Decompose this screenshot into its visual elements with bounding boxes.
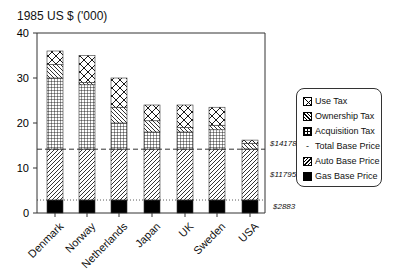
bar-sweden xyxy=(209,107,225,217)
diagonal-swatch-icon xyxy=(303,157,312,166)
grid-swatch-icon xyxy=(303,127,312,136)
gas-base-price-annotation: $2883 xyxy=(273,202,295,211)
y-tick-label: 30 xyxy=(17,72,29,84)
bar-netherlands xyxy=(111,78,127,217)
y-tick-label: 20 xyxy=(17,117,29,129)
legend-item-use-tax: Use Tax xyxy=(303,96,347,106)
back-diagonal-swatch-icon xyxy=(303,112,312,121)
legend-label: Ownership Tax xyxy=(315,111,374,121)
legend-label: Use Tax xyxy=(315,96,347,106)
solid-swatch-icon xyxy=(303,172,312,181)
legend-label: Acquisition Tax xyxy=(315,126,375,136)
y-tick-label: 0 xyxy=(23,207,29,219)
dash-swatch-icon: - xyxy=(303,141,312,151)
bar-denmark xyxy=(47,51,63,217)
auto-base-price-annotation: $11795 xyxy=(270,170,296,179)
bar-usa xyxy=(242,140,258,217)
legend-label: Auto Base Price xyxy=(315,156,380,166)
legend-item-ownership-tax: Ownership Tax xyxy=(303,111,374,121)
legend-item-total-base-price: - Total Base Price xyxy=(303,141,380,151)
crosshatch-swatch-icon xyxy=(303,97,312,106)
y-tick-label: 40 xyxy=(17,27,29,39)
legend: Use Tax Ownership Tax Acquisition Tax - … xyxy=(296,88,382,187)
legend-item-acquisition-tax: Acquisition Tax xyxy=(303,126,375,136)
legend-label: Total Base Price xyxy=(315,141,380,151)
y-tick-label: 10 xyxy=(17,162,29,174)
legend-item-gas-base-price: Gas Base Price xyxy=(303,171,378,181)
bar-norway xyxy=(79,56,95,218)
legend-label: Gas Base Price xyxy=(315,171,378,181)
legend-item-auto-base-price: Auto Base Price xyxy=(303,156,380,166)
total-base-price-annotation: $14178 xyxy=(270,139,297,148)
